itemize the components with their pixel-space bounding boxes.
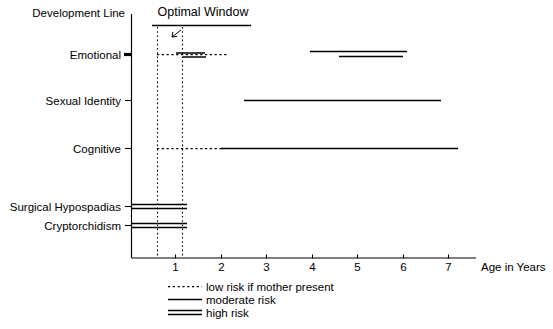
- legend: low risk if mother present moderate risk…: [168, 281, 335, 319]
- series-emotional: [157, 52, 407, 58]
- optimal-window-annotation: Optimal Window: [152, 5, 251, 258]
- series-cryptorchidism: [131, 224, 187, 228]
- x-tick-label-2: 2: [218, 261, 224, 273]
- legend-entry-moderate-risk: moderate risk: [168, 294, 276, 306]
- y-axis-title: Development Line: [32, 7, 125, 19]
- optimal-window-label: Optimal Window: [158, 5, 250, 19]
- x-tick-label-3: 3: [263, 261, 269, 273]
- legend-label-low-risk: low risk if mother present: [206, 281, 335, 293]
- axes-group: [132, 14, 477, 258]
- x-tick-labels: 1 2 3 4 5 6 7: [172, 261, 451, 273]
- x-tick-label-6: 6: [400, 261, 406, 273]
- row-label-emotional: Emotional: [70, 49, 121, 61]
- row-label-cryptorchidism: Cryptorchidism: [44, 220, 121, 232]
- x-tick-label-1: 1: [172, 261, 178, 273]
- legend-entry-high-risk: high risk: [168, 307, 249, 319]
- row-label-cognitive: Cognitive: [73, 143, 121, 155]
- legend-label-high-risk: high risk: [206, 307, 249, 319]
- chart-canvas: Development Line Emotional Sexual Identi…: [0, 0, 553, 329]
- legend-entry-low-risk: low risk if mother present: [168, 281, 335, 293]
- x-tick-label-4: 4: [309, 261, 316, 273]
- row-labels-group: Emotional Sexual Identity Cognitive Surg…: [10, 49, 121, 232]
- x-tick-label-7: 7: [445, 261, 451, 273]
- x-axis-title: Age in Years: [481, 261, 546, 273]
- row-label-surgical-hypospadias: Surgical Hypospadias: [10, 201, 121, 213]
- y-tick-marks: [124, 55, 132, 226]
- legend-label-moderate-risk: moderate risk: [206, 294, 276, 306]
- x-tick-label-5: 5: [354, 261, 360, 273]
- series-surgical-hypospadias: [131, 205, 187, 209]
- row-label-sexual-identity: Sexual Identity: [46, 95, 122, 107]
- developmental-timeline-chart: Development Line Emotional Sexual Identi…: [0, 0, 553, 329]
